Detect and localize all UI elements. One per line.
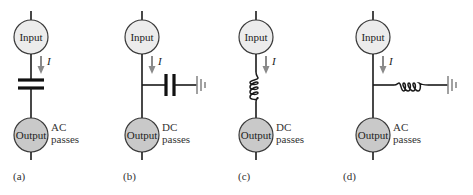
pass-word: passes [162,133,190,145]
capacitor-icon [166,74,174,96]
panel-a: Input I Output AC passes (a) [13,11,79,183]
current-arrow-icon [263,56,270,74]
pass-word: passes [393,133,421,145]
current-arrow-icon [380,56,387,74]
ground-icon [197,76,205,94]
inductor-icon [394,83,428,91]
current-label: I [388,55,394,67]
filter-circuits-figure: Input I Output AC passes (a) Input I [0,0,473,195]
current-label: I [46,55,52,67]
output-label: Output [241,129,272,141]
current-label: I [271,55,277,67]
current-arrow-icon [149,56,156,74]
output-label: Output [16,129,47,141]
output-label: Output [127,129,158,141]
pass-type: DC [162,121,177,133]
input-label: Input [130,31,153,43]
panel-c: Input I Output DC passes (c) [238,11,304,183]
panel-label: (a) [13,170,26,183]
input-label: Input [244,31,267,43]
pass-word: passes [51,133,79,145]
current-arrow-icon [38,56,45,74]
capacitor-icon [18,80,44,88]
ground-icon [448,76,456,94]
panel-d: Input I Output AC passes (d) [343,11,456,183]
output-label: Output [358,129,389,141]
panel-label: (c) [238,170,251,183]
inductor-icon [250,72,258,102]
pass-type: AC [393,121,408,133]
pass-word: passes [276,133,304,145]
input-label: Input [361,31,384,43]
current-label: I [157,55,163,67]
panel-b: Input I Output DC passes (b) [123,11,205,183]
input-label: Input [19,31,42,43]
panel-label: (b) [123,170,136,183]
panel-label: (d) [343,170,356,183]
pass-type: AC [51,121,66,133]
pass-type: DC [276,121,291,133]
